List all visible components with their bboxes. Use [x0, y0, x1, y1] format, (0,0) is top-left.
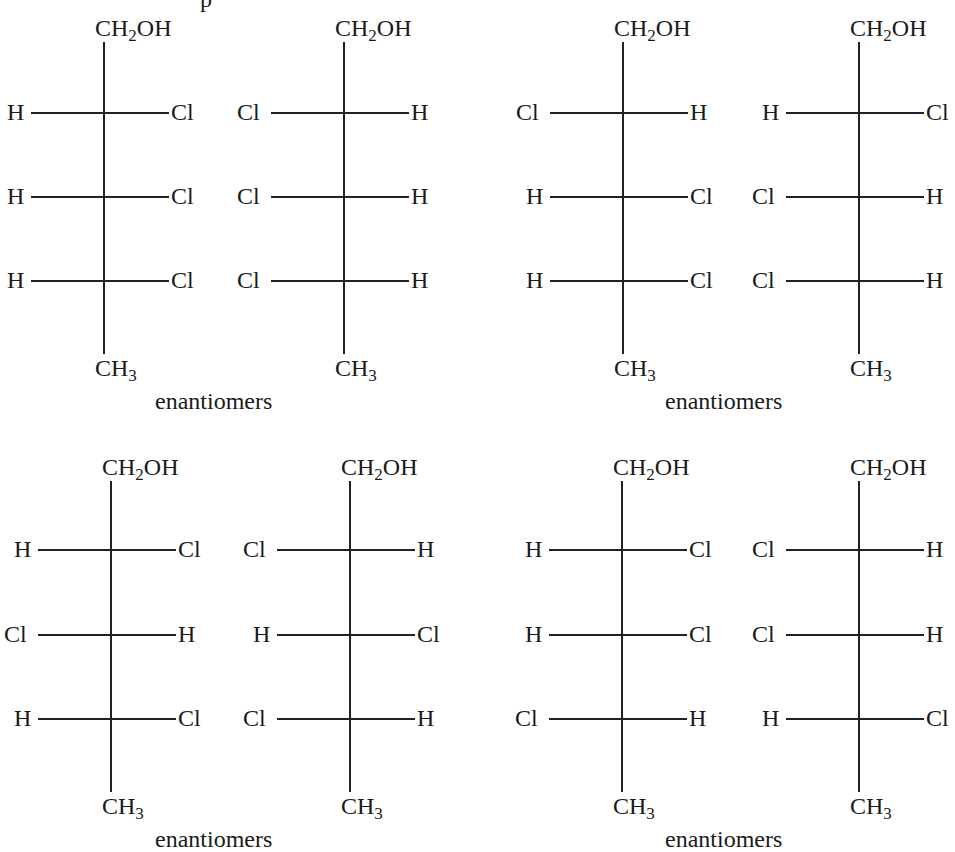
substituent-right-cl: Cl [689, 622, 712, 646]
substituent-right-cl: Cl [171, 268, 194, 292]
substituent-left-cl: Cl [752, 622, 775, 646]
carbon-chain-line [858, 42, 860, 354]
substituent-left-h: H [525, 622, 542, 646]
carbon-chain-line [621, 481, 623, 792]
substituent-left-h: H [762, 706, 779, 730]
substituent-bond [786, 549, 924, 551]
substituent-bond [549, 718, 687, 720]
substituent-bond [786, 280, 924, 282]
substituent-right-h: H [926, 184, 943, 208]
carbon-chain-line [110, 481, 112, 792]
ch2oh-label: CH2OH [341, 455, 418, 479]
substituent-bond [38, 718, 176, 720]
substituent-left-cl: Cl [237, 100, 260, 124]
ch2oh-label: CH2OH [850, 455, 927, 479]
substituent-left-cl: Cl [752, 184, 775, 208]
substituent-left-h: H [7, 100, 24, 124]
enantiomers-caption: enantiomers [155, 827, 272, 851]
cut-off-heading-fragment: p [200, 0, 212, 13]
substituent-bond [786, 112, 924, 114]
substituent-bond [549, 634, 687, 636]
substituent-right-h: H [411, 100, 428, 124]
ch2oh-label: CH2OH [95, 16, 172, 40]
substituent-right-h: H [411, 268, 428, 292]
substituent-right-cl: Cl [690, 268, 713, 292]
substituent-left-h: H [14, 537, 31, 561]
substituent-right-cl: Cl [171, 100, 194, 124]
substituent-bond [271, 112, 409, 114]
carbon-chain-line [349, 481, 351, 792]
substituent-bond [550, 112, 688, 114]
substituent-left-h: H [253, 622, 270, 646]
substituent-right-h: H [926, 537, 943, 561]
substituent-right-h: H [926, 268, 943, 292]
enantiomers-caption: enantiomers [665, 389, 782, 413]
substituent-left-cl: Cl [516, 100, 539, 124]
ch3-label: CH3 [613, 794, 655, 818]
substituent-bond [277, 549, 415, 551]
substituent-bond [31, 196, 169, 198]
ch3-label: CH3 [335, 356, 377, 380]
ch3-label: CH3 [102, 794, 144, 818]
substituent-bond [786, 718, 924, 720]
carbon-chain-line [103, 42, 105, 354]
substituent-bond [786, 196, 924, 198]
substituent-right-h: H [417, 706, 434, 730]
substituent-bond [31, 280, 169, 282]
substituent-bond [549, 549, 687, 551]
substituent-bond [277, 634, 415, 636]
substituent-right-cl: Cl [178, 537, 201, 561]
substituent-right-h: H [689, 706, 706, 730]
substituent-bond [38, 634, 176, 636]
substituent-left-cl: Cl [237, 268, 260, 292]
enantiomers-caption: enantiomers [155, 389, 272, 413]
substituent-bond [277, 718, 415, 720]
substituent-left-cl: Cl [752, 537, 775, 561]
ch3-label: CH3 [341, 794, 383, 818]
substituent-left-h: H [7, 184, 24, 208]
substituent-right-h: H [417, 537, 434, 561]
substituent-left-h: H [526, 184, 543, 208]
ch3-label: CH3 [850, 356, 892, 380]
ch3-label: CH3 [614, 356, 656, 380]
substituent-right-cl: Cl [926, 100, 949, 124]
ch2oh-label: CH2OH [102, 455, 179, 479]
substituent-right-cl: Cl [690, 184, 713, 208]
substituent-left-cl: Cl [4, 622, 27, 646]
substituent-bond [550, 196, 688, 198]
substituent-right-cl: Cl [171, 184, 194, 208]
ch2oh-label: CH2OH [335, 16, 412, 40]
substituent-left-cl: Cl [752, 268, 775, 292]
substituent-left-h: H [762, 100, 779, 124]
substituent-bond [31, 112, 169, 114]
substituent-right-h: H [178, 622, 195, 646]
enantiomers-caption: enantiomers [665, 827, 782, 851]
substituent-right-cl: Cl [417, 622, 440, 646]
substituent-right-cl: Cl [689, 537, 712, 561]
substituent-bond [271, 196, 409, 198]
substituent-bond [786, 634, 924, 636]
substituent-right-h: H [926, 622, 943, 646]
substituent-left-cl: Cl [243, 706, 266, 730]
ch2oh-label: CH2OH [850, 16, 927, 40]
substituent-left-cl: Cl [243, 537, 266, 561]
ch3-label: CH3 [850, 794, 892, 818]
substituent-left-h: H [525, 537, 542, 561]
substituent-bond [271, 280, 409, 282]
substituent-right-h: H [690, 100, 707, 124]
substituent-left-h: H [14, 706, 31, 730]
carbon-chain-line [343, 42, 345, 354]
substituent-right-h: H [411, 184, 428, 208]
substituent-left-cl: Cl [237, 184, 260, 208]
ch2oh-label: CH2OH [614, 16, 691, 40]
ch2oh-label: CH2OH [613, 455, 690, 479]
substituent-bond [38, 549, 176, 551]
substituent-left-cl: Cl [515, 706, 538, 730]
carbon-chain-line [622, 42, 624, 354]
substituent-bond [550, 280, 688, 282]
carbon-chain-line [858, 481, 860, 792]
substituent-left-h: H [526, 268, 543, 292]
substituent-left-h: H [7, 268, 24, 292]
substituent-right-cl: Cl [178, 706, 201, 730]
ch3-label: CH3 [95, 356, 137, 380]
